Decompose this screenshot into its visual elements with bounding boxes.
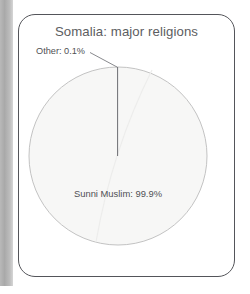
page-title: Somalia: major religions [18,24,235,39]
pie-chart [0,0,250,294]
slice-label-other: Other: 0.1% [36,46,85,56]
other-label-leader-line [90,53,117,68]
slice-label-sunni-muslim: Sunni Muslim: 99.9% [18,188,218,199]
